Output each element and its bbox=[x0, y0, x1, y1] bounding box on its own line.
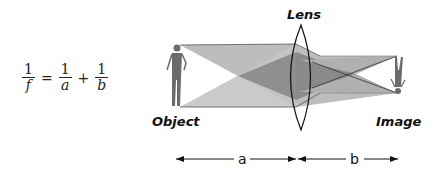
distance-b: b bbox=[298, 151, 398, 167]
lens-diagram: Lens Object Image a b bbox=[0, 0, 442, 173]
object-figure-icon bbox=[167, 45, 186, 107]
distance-a-label: a bbox=[238, 151, 247, 167]
lens-label: Lens bbox=[287, 7, 321, 22]
light-beams bbox=[180, 44, 397, 107]
distance-b-label: b bbox=[350, 151, 359, 167]
object-label: Object bbox=[152, 114, 200, 129]
distance-a: a bbox=[176, 151, 296, 167]
image-label: Image bbox=[376, 114, 421, 129]
